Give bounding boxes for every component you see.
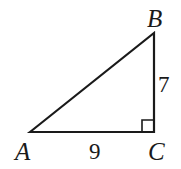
vertex-label-b: B [147,6,162,31]
right-angle-marker-icon [142,120,154,132]
side-label-ac: 9 [89,140,101,163]
triangle-abc [30,33,154,132]
side-label-bc: 7 [158,73,170,96]
vertex-label-a: A [15,139,30,164]
triangle-diagram: B A C 7 9 [0,0,181,169]
vertex-label-c: C [148,139,165,164]
